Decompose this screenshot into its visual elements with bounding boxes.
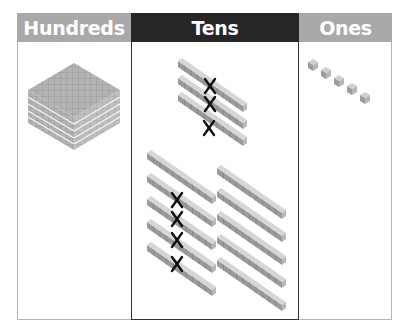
tens-column: Tens [131,13,299,320]
hundreds-flats-stack [28,63,120,150]
tens-header: Tens [131,13,299,42]
tens-cell [131,42,299,320]
ones-unit-cubes [308,59,370,104]
